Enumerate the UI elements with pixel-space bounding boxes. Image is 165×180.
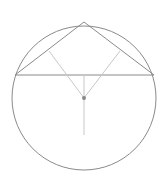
center-point bbox=[82, 96, 86, 100]
triangle-side-left bbox=[15, 22, 84, 75]
triangle-side-right bbox=[84, 22, 154, 75]
geometry-diagram bbox=[0, 0, 165, 180]
